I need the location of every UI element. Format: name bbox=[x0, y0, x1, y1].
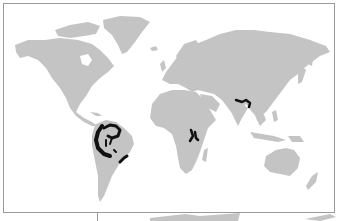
madagascar bbox=[202, 148, 208, 162]
antarctica-fragment-2 bbox=[305, 214, 336, 221]
iceland bbox=[150, 46, 158, 51]
greenland bbox=[103, 16, 150, 54]
land-masses bbox=[15, 16, 336, 221]
world-map bbox=[0, 0, 338, 221]
arctic-islands bbox=[55, 22, 100, 38]
india bbox=[228, 102, 248, 126]
frame-tick bbox=[97, 213, 98, 221]
indonesia bbox=[250, 132, 286, 142]
north-america bbox=[15, 38, 114, 126]
philippines bbox=[272, 110, 278, 122]
antarctica-fragment bbox=[150, 213, 240, 221]
british-isles bbox=[160, 60, 166, 72]
new-guinea bbox=[288, 136, 304, 142]
caribbean bbox=[90, 112, 102, 116]
new-zealand bbox=[306, 172, 318, 190]
australia bbox=[264, 148, 300, 176]
